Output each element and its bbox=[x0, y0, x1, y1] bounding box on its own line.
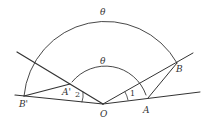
angle-2-label: 2 bbox=[75, 91, 80, 99]
point-a-label: A bbox=[143, 106, 150, 115]
angle-1-arc bbox=[125, 92, 128, 100]
outer-theta-label: θ bbox=[100, 8, 105, 17]
angle-2-arc bbox=[82, 92, 83, 102]
point-b-label: B bbox=[176, 65, 183, 74]
ray-ob bbox=[103, 53, 193, 104]
angle-1-label: 1 bbox=[130, 90, 135, 98]
point-a-prime-label: A' bbox=[62, 88, 71, 97]
inner-theta-label: θ bbox=[100, 57, 105, 66]
geometry-diagram: θ θ B A O A' B' 1 2 bbox=[0, 0, 210, 128]
segment-ab bbox=[148, 63, 177, 98]
point-o-label: O bbox=[100, 110, 107, 119]
point-b-prime-label: B' bbox=[19, 100, 28, 109]
